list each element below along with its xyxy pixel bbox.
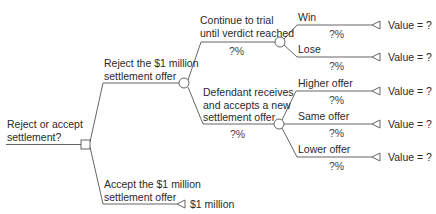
lose-value: Value = ? [388, 51, 432, 64]
new-offer-label: Defendant receives and accepts a new set… [203, 86, 293, 124]
reject-branch-line [90, 83, 179, 142]
win-value: Value = ? [388, 19, 432, 32]
same-offer-value: Value = ? [388, 118, 432, 131]
higher-offer-prob: ?% [329, 94, 344, 107]
terminal-triangle-higher [372, 87, 380, 95]
new-offer-label-line3: settlement offer [203, 111, 293, 124]
lose-label: Lose [298, 43, 321, 56]
reject-label-line2: settlement offer [104, 70, 199, 83]
lose-prob: ?% [329, 60, 344, 73]
accept-value: $1 million [190, 198, 234, 211]
same-offer-label: Same offer [298, 110, 349, 123]
new-offer-prob: ?% [230, 128, 245, 141]
reject-label: Reject the $1 million settlement offer [104, 57, 199, 82]
trial-label: Continue to trial until verdict reached [200, 14, 294, 39]
accept-label-line2: settlement offer [104, 191, 201, 204]
trial-label-line2: until verdict reached [200, 27, 294, 40]
higher-offer-label: Higher offer [298, 77, 353, 90]
lower-offer-label: Lower offer [298, 143, 350, 156]
accept-label-line1: Accept the $1 million [104, 178, 201, 191]
root-label-line1: Reject or accept [7, 118, 83, 131]
win-branch-line [284, 25, 372, 39]
new-offer-label-line1: Defendant receives [203, 86, 293, 99]
new-offer-label-line2: and accepts a new [203, 99, 293, 112]
terminal-triangle-same [372, 120, 380, 128]
lower-offer-value: Value = ? [388, 151, 432, 164]
reject-label-line1: Reject the $1 million [104, 57, 199, 70]
higher-offer-value: Value = ? [388, 85, 432, 98]
trial-label-line1: Continue to trial [200, 14, 294, 27]
root-label: Reject or accept settlement? [7, 118, 83, 143]
trial-prob: ?% [229, 45, 244, 58]
root-label-line2: settlement? [7, 131, 83, 144]
lower-offer-prob: ?% [329, 160, 344, 173]
accept-label: Accept the $1 million settlement offer [104, 178, 201, 203]
same-offer-prob: ?% [329, 127, 344, 140]
terminal-triangle-lower [372, 153, 380, 161]
win-label: Win [298, 11, 316, 24]
decision-tree: Reject or accept settlement? Reject the … [0, 0, 436, 214]
terminal-triangle-lose [372, 53, 380, 61]
win-prob: ?% [329, 28, 344, 41]
terminal-triangle-win [372, 21, 380, 29]
